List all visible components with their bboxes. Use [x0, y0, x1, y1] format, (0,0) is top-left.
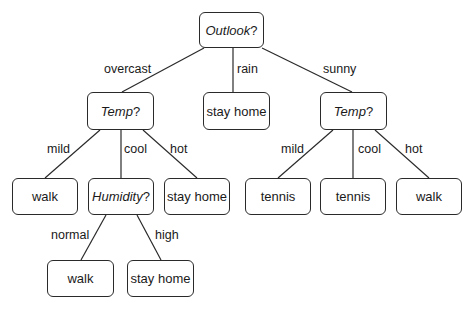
- node-label: tennis: [336, 189, 371, 204]
- node-label: stay home: [167, 189, 227, 204]
- node-outlook: Outlook?: [199, 12, 264, 48]
- node-suffix: ?: [133, 104, 140, 119]
- node-walk-mild-left: walk: [12, 178, 78, 215]
- node-suffix: ?: [366, 104, 373, 119]
- node-attribute: Humidity: [92, 189, 143, 204]
- node-stay-home-high: stay home: [127, 260, 194, 297]
- edge-label-hum-high: high: [155, 228, 179, 242]
- node-stay-home-hot-left: stay home: [164, 178, 230, 215]
- edge-label-hum-normal: normal: [51, 228, 89, 242]
- node-label: stay home: [207, 104, 267, 119]
- edge-label-tl-cool: cool: [124, 142, 147, 156]
- edge-label-tr-mild: mild: [281, 142, 304, 156]
- node-temp-left: Temp?: [87, 92, 154, 130]
- node-label: walk: [32, 189, 58, 204]
- edge-label-tl-mild: mild: [47, 142, 70, 156]
- edge-label-tr-hot: hot: [405, 142, 422, 156]
- edge-label-tl-hot: hot: [170, 142, 187, 156]
- node-tennis-cool-right: tennis: [320, 178, 386, 215]
- node-walk-normal: walk: [47, 260, 114, 297]
- node-tennis-mild-right: tennis: [245, 178, 311, 215]
- node-label: tennis: [261, 189, 296, 204]
- node-temp-right: Temp?: [320, 92, 387, 130]
- edge-label-rain: rain: [237, 62, 258, 76]
- node-suffix: ?: [143, 189, 150, 204]
- edge-label-tr-cool: cool: [358, 142, 381, 156]
- node-walk-hot-right: walk: [396, 178, 462, 215]
- node-attribute: Outlook: [205, 23, 250, 38]
- node-label: stay home: [131, 271, 191, 286]
- node-label: walk: [416, 189, 442, 204]
- node-suffix: ?: [250, 23, 257, 38]
- edge-label-sunny: sunny: [323, 62, 356, 76]
- node-stay-home-rain: stay home: [203, 92, 270, 130]
- node-attribute: Temp: [101, 104, 133, 119]
- node-humidity: Humidity?: [88, 178, 154, 215]
- edge-label-overcast: overcast: [104, 62, 151, 76]
- node-attribute: Temp: [334, 104, 366, 119]
- node-label: walk: [67, 271, 93, 286]
